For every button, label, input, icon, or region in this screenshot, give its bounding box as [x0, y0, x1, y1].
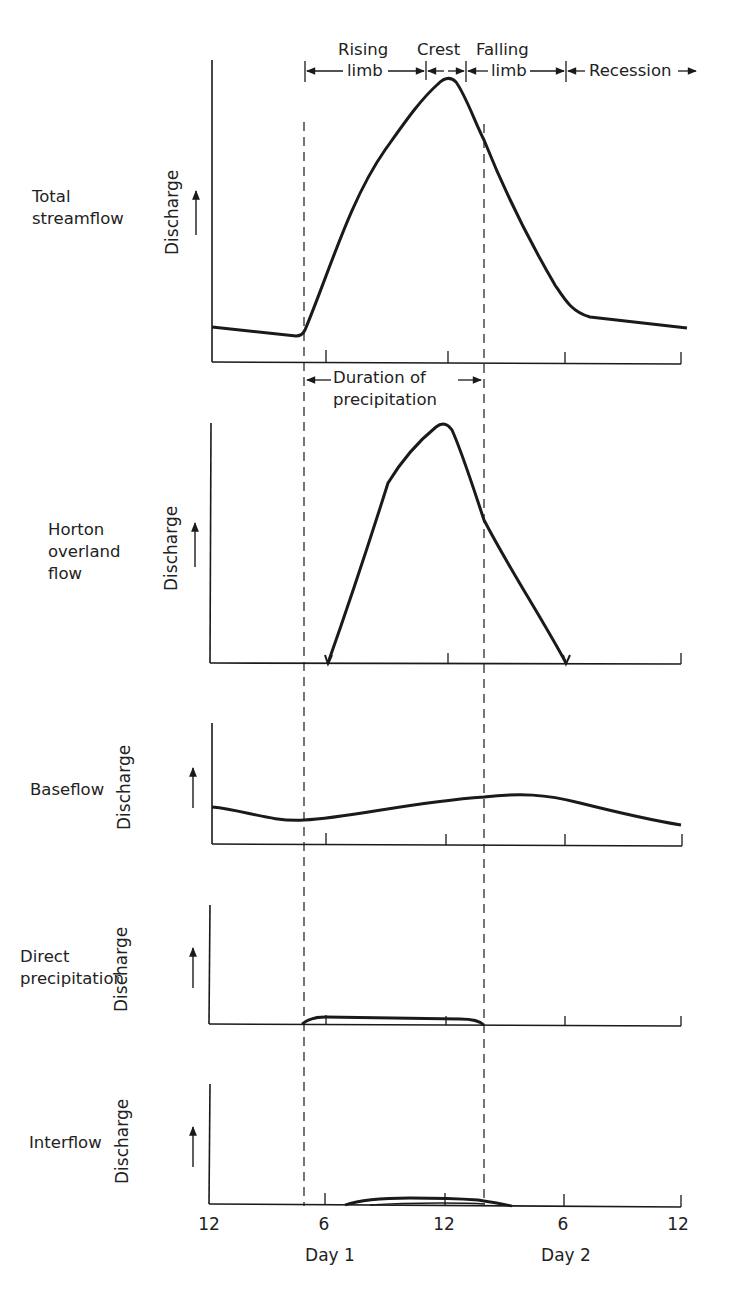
- panel-name-interflow: Interflow: [29, 1132, 102, 1154]
- panel-interflow: [209, 1084, 681, 1207]
- x-tick-3: 6: [543, 1214, 583, 1234]
- y-axis-label-horton: Discharge: [161, 506, 181, 591]
- hydrograph-figure: Rising limb Crest Falling limb Recession…: [0, 0, 738, 1293]
- horton-overland-flow-curve: [328, 424, 566, 663]
- label-falling: Falling: [476, 40, 529, 59]
- baseflow-curve: [212, 795, 681, 825]
- label-rising-limb: limb: [345, 61, 385, 80]
- panel-name-baseflow: Baseflow: [30, 779, 104, 801]
- x-tick-4: 12: [658, 1214, 698, 1234]
- panel-direct-precipitation: [209, 905, 681, 1026]
- label-falling-limb: limb: [489, 61, 529, 80]
- panel-name-horton-overland-flow: Horton overland flow: [48, 519, 120, 585]
- x-tick-1: 6: [304, 1214, 344, 1234]
- y-axis-label-total: Discharge: [162, 170, 182, 255]
- x-tick-0: 12: [189, 1214, 229, 1234]
- label-duration-of: Duration of: [333, 368, 426, 387]
- x-day-2: Day 2: [526, 1245, 606, 1265]
- panel-name-direct-precipitation: Direct precipitation: [20, 946, 124, 990]
- panel-name-total-streamflow: Total streamflow: [32, 186, 124, 230]
- label-rising: Rising: [338, 40, 388, 59]
- label-crest: Crest: [417, 40, 460, 59]
- y-axis-label-interflow: Discharge: [112, 1099, 132, 1184]
- panel-horton-overland-flow: [210, 423, 681, 664]
- x-tick-2: 12: [424, 1214, 464, 1234]
- label-recession: Recession: [587, 61, 673, 80]
- label-precipitation: precipitation: [333, 390, 437, 409]
- discharge-arrows: [193, 191, 196, 1167]
- x-day-1: Day 1: [290, 1245, 370, 1265]
- y-axis-label-baseflow: Discharge: [114, 745, 134, 830]
- panel-baseflow: [212, 723, 682, 846]
- panel-total-streamflow: [212, 60, 687, 364]
- y-axis-label-direct: Discharge: [111, 927, 131, 1012]
- total-streamflow-curve: [212, 78, 687, 336]
